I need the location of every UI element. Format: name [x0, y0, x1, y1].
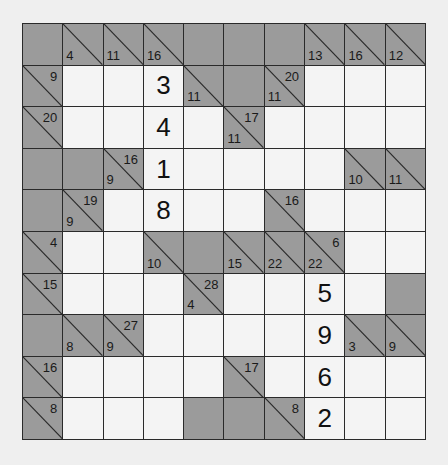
entry-cell[interactable] — [386, 66, 425, 107]
entry-cell[interactable] — [184, 149, 223, 190]
digit-input[interactable] — [305, 190, 344, 231]
entry-cell[interactable] — [63, 232, 102, 273]
entry-cell[interactable]: 9 — [305, 315, 344, 356]
entry-cell[interactable] — [345, 398, 384, 439]
digit-input[interactable] — [184, 107, 223, 148]
entry-cell[interactable] — [265, 357, 304, 398]
digit-input[interactable] — [386, 66, 425, 107]
digit-input[interactable] — [144, 274, 183, 315]
entry-cell[interactable] — [104, 232, 143, 273]
entry-cell[interactable] — [63, 398, 102, 439]
digit-input[interactable] — [104, 274, 143, 315]
digit-input[interactable] — [144, 315, 183, 356]
digit-input[interactable] — [63, 357, 102, 398]
digit-input[interactable] — [104, 357, 143, 398]
entry-cell[interactable] — [224, 190, 263, 231]
digit-input[interactable] — [224, 190, 263, 231]
entry-cell[interactable]: 2 — [305, 398, 344, 439]
entry-cell[interactable] — [224, 274, 263, 315]
digit-input[interactable] — [224, 315, 263, 356]
digit-input[interactable] — [386, 398, 425, 439]
entry-cell[interactable] — [345, 274, 384, 315]
entry-cell[interactable] — [184, 190, 223, 231]
digit-input[interactable] — [265, 357, 304, 398]
entry-cell[interactable] — [305, 66, 344, 107]
entry-cell[interactable] — [144, 315, 183, 356]
digit-input[interactable] — [265, 149, 304, 190]
digit-input[interactable] — [144, 357, 183, 398]
entry-cell[interactable] — [265, 315, 304, 356]
entry-cell[interactable]: 3 — [144, 66, 183, 107]
entry-cell[interactable] — [104, 66, 143, 107]
entry-cell[interactable] — [104, 190, 143, 231]
entry-cell[interactable] — [386, 232, 425, 273]
entry-cell[interactable] — [184, 357, 223, 398]
entry-cell[interactable] — [63, 66, 102, 107]
digit-input[interactable] — [345, 107, 384, 148]
entry-cell[interactable] — [224, 315, 263, 356]
entry-cell[interactable]: 6 — [305, 357, 344, 398]
entry-cell[interactable] — [265, 149, 304, 190]
entry-cell[interactable] — [265, 274, 304, 315]
digit-input[interactable] — [305, 66, 344, 107]
entry-cell[interactable] — [184, 315, 223, 356]
entry-cell[interactable] — [305, 190, 344, 231]
digit-input[interactable] — [104, 66, 143, 107]
digit-input[interactable] — [224, 274, 263, 315]
entry-cell[interactable] — [345, 66, 384, 107]
entry-cell[interactable] — [386, 190, 425, 231]
digit-input[interactable] — [184, 315, 223, 356]
entry-cell[interactable] — [63, 107, 102, 148]
digit-input[interactable] — [63, 232, 102, 273]
digit-input[interactable] — [345, 190, 384, 231]
digit-input[interactable] — [63, 66, 102, 107]
digit-input[interactable] — [104, 107, 143, 148]
entry-cell[interactable] — [224, 149, 263, 190]
entry-cell[interactable] — [144, 274, 183, 315]
digit-input[interactable] — [386, 190, 425, 231]
digit-input[interactable] — [345, 357, 384, 398]
digit-input[interactable] — [104, 398, 143, 439]
entry-cell[interactable] — [144, 357, 183, 398]
entry-cell[interactable] — [104, 357, 143, 398]
entry-cell[interactable] — [104, 398, 143, 439]
digit-input[interactable] — [104, 232, 143, 273]
digit-input[interactable] — [104, 190, 143, 231]
digit-input[interactable] — [144, 398, 183, 439]
digit-input[interactable] — [305, 149, 344, 190]
entry-cell[interactable] — [305, 107, 344, 148]
digit-input[interactable] — [265, 274, 304, 315]
digit-input[interactable] — [265, 315, 304, 356]
entry-cell[interactable] — [386, 107, 425, 148]
digit-input[interactable] — [184, 190, 223, 231]
digit-input[interactable] — [386, 107, 425, 148]
digit-input[interactable] — [386, 357, 425, 398]
entry-cell[interactable] — [386, 398, 425, 439]
digit-input[interactable] — [386, 232, 425, 273]
entry-cell[interactable] — [265, 107, 304, 148]
digit-input[interactable] — [63, 107, 102, 148]
entry-cell[interactable] — [144, 398, 183, 439]
entry-cell[interactable] — [104, 274, 143, 315]
entry-cell[interactable] — [63, 357, 102, 398]
entry-cell[interactable]: 4 — [144, 107, 183, 148]
digit-input[interactable] — [345, 398, 384, 439]
digit-input[interactable] — [184, 149, 223, 190]
digit-input[interactable] — [345, 274, 384, 315]
entry-cell[interactable] — [63, 274, 102, 315]
entry-cell[interactable] — [305, 149, 344, 190]
entry-cell[interactable] — [345, 232, 384, 273]
entry-cell[interactable]: 8 — [144, 190, 183, 231]
digit-input[interactable] — [63, 398, 102, 439]
digit-input[interactable] — [345, 66, 384, 107]
digit-input[interactable] — [305, 107, 344, 148]
entry-cell[interactable] — [184, 107, 223, 148]
entry-cell[interactable]: 1 — [144, 149, 183, 190]
entry-cell[interactable] — [345, 357, 384, 398]
entry-cell[interactable]: 5 — [305, 274, 344, 315]
digit-input[interactable] — [184, 357, 223, 398]
entry-cell[interactable] — [386, 357, 425, 398]
digit-input[interactable] — [345, 232, 384, 273]
digit-input[interactable] — [265, 107, 304, 148]
entry-cell[interactable] — [345, 107, 384, 148]
